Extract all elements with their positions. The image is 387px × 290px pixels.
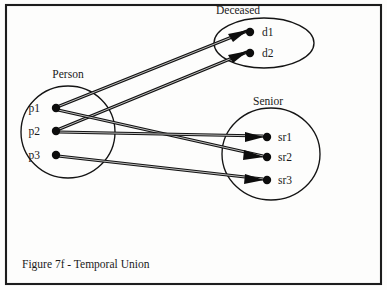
set-label-person: Person: [52, 68, 84, 80]
node-label-p2: p2: [29, 125, 41, 138]
node-dot-p3[interactable]: [52, 151, 60, 159]
node-dot-d1[interactable]: [246, 28, 254, 36]
arrowhead-sr1: [245, 132, 264, 142]
node-label-d2: d2: [262, 47, 274, 59]
node-dot-sr1[interactable]: [263, 133, 271, 141]
temporal-union-diagram: Person Deceased Senior p1 p2 p3 d1 d2 sr…: [0, 0, 387, 290]
node-label-p3: p3: [29, 149, 41, 162]
node-dot-d2[interactable]: [246, 49, 254, 57]
node-dot-p1[interactable]: [52, 104, 60, 112]
edge-p3-sr3: [58, 156, 263, 179]
node-dot-sr2[interactable]: [263, 153, 271, 161]
node-label-p1: p1: [29, 102, 41, 115]
set-label-senior: Senior: [253, 95, 283, 107]
node-dot-sr3[interactable]: [263, 176, 271, 184]
set-shape-senior: [222, 108, 320, 200]
edge-layer: [57, 31, 263, 179]
figure-caption: Figure 7f - Temporal Union: [22, 258, 150, 271]
node-dot-p2[interactable]: [52, 127, 60, 135]
node-label-sr2: sr2: [278, 151, 292, 163]
node-label-d1: d1: [262, 26, 274, 38]
node-layer: [52, 28, 271, 184]
node-label-sr3: sr3: [278, 174, 292, 186]
figure-border: [6, 5, 381, 284]
arrowhead-d1: [228, 30, 248, 42]
edge-p1-d1: [57, 31, 247, 107]
figure-container: Person Deceased Senior p1 p2 p3 d1 d2 sr…: [0, 0, 387, 290]
node-label-sr1: sr1: [278, 131, 292, 143]
edge-p2-d2: [57, 52, 247, 130]
edge-p2-sr1: [58, 132, 263, 136]
set-label-deceased: Deceased: [216, 4, 260, 16]
